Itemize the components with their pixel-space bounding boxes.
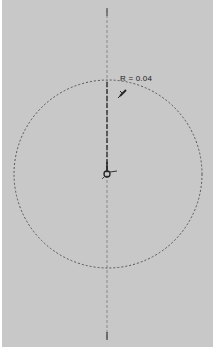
radius-dimension-label: R = 0.04 <box>120 74 152 83</box>
pen-cursor-icon <box>118 90 126 98</box>
sketch-drawing <box>2 0 213 347</box>
center-point-icon[interactable] <box>102 162 117 179</box>
circle-preview[interactable] <box>14 80 202 268</box>
sketch-canvas[interactable]: R = 0.04 <box>2 0 213 347</box>
